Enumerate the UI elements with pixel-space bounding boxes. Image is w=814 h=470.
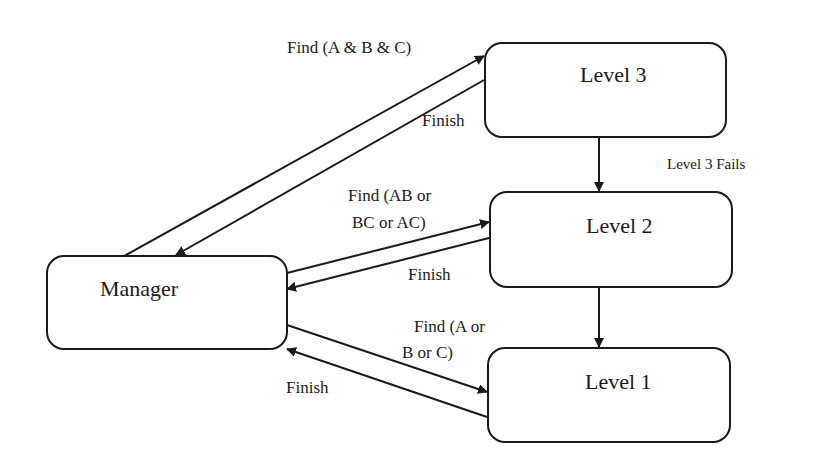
level3-label: Level 3 [580,62,647,88]
edge-label-find-pairs-line2: BC or AC) [352,212,426,234]
edge-label-find-single-line1: Find (A or [414,316,485,338]
level3-node: Level 3 [484,42,727,138]
edge-label-finish-level1: Finish [286,377,329,399]
edge-label-find-abc: Find (A & B & C) [287,37,411,59]
arrow-level3-to-manager [176,80,484,255]
level2-label: Level 2 [586,213,653,239]
edge-label-find-single-line2: B or C) [402,342,453,364]
arrow-manager-to-level3 [117,56,484,260]
level1-node: Level 1 [487,347,731,443]
edge-label-level3-fails: Level 3 Fails [667,153,745,175]
manager-node: Manager [46,255,288,350]
level1-label: Level 1 [585,369,652,395]
edge-label-find-pairs-line1: Find (AB or [348,185,431,207]
edge-label-finish-level2: Finish [408,264,451,286]
arrow-level2-to-manager [287,238,489,289]
level2-node: Level 2 [489,191,733,288]
edge-label-finish-level3: Finish [422,110,465,132]
manager-label: Manager [100,276,178,302]
